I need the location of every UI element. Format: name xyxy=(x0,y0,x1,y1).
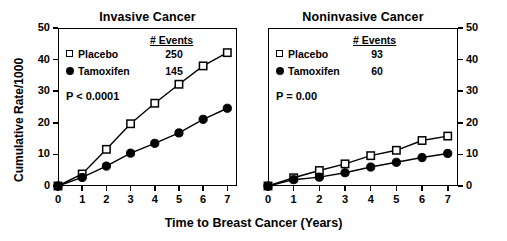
data-point xyxy=(392,158,400,166)
y-tick-label: 0 xyxy=(22,179,50,191)
x-tick-label: 1 xyxy=(284,193,304,205)
x-tick-mark xyxy=(344,186,346,191)
legend-label-tamoxifen: Tamoxifen xyxy=(288,65,340,77)
x-tick-label: 0 xyxy=(258,193,278,205)
y-tick-label: 0 xyxy=(466,179,494,191)
x-tick-mark xyxy=(293,186,295,191)
data-point xyxy=(367,163,375,171)
y-tick-label: 50 xyxy=(22,21,50,33)
data-point xyxy=(341,169,349,177)
x-tick-mark xyxy=(227,186,229,191)
y-tick-mark xyxy=(53,122,58,124)
x-tick-label: 0 xyxy=(48,193,68,205)
y-tick-mark xyxy=(458,27,463,29)
x-tick-mark xyxy=(421,186,423,191)
y-tick-mark xyxy=(458,122,463,124)
figure-root: Cumulative Rate/1000 Time to Breast Canc… xyxy=(0,0,507,241)
y-tick-label: 30 xyxy=(22,84,50,96)
y-tick-label: 20 xyxy=(466,116,494,128)
y-tick-mark xyxy=(458,90,463,92)
x-tick-mark xyxy=(178,186,180,191)
x-tick-label: 5 xyxy=(386,193,406,205)
data-point xyxy=(393,147,400,154)
data-point xyxy=(341,160,348,167)
filled-circle-icon xyxy=(276,67,284,75)
y-tick-label: 50 xyxy=(466,21,494,33)
x-tick-mark xyxy=(130,186,132,191)
x-tick-mark xyxy=(319,186,321,191)
x-tick-label: 2 xyxy=(96,193,116,205)
x-tick-mark xyxy=(447,186,449,191)
x-tick-mark xyxy=(370,186,372,191)
x-tick-label: 7 xyxy=(438,193,458,205)
x-tick-label: 5 xyxy=(169,193,189,205)
x-tick-label: 4 xyxy=(145,193,165,205)
x-tick-mark xyxy=(267,186,269,191)
x-tick-label: 7 xyxy=(217,193,237,205)
y-tick-mark xyxy=(53,154,58,156)
x-tick-mark xyxy=(202,186,204,191)
x-tick-mark xyxy=(81,186,83,191)
legend-label-placebo: Placebo xyxy=(288,48,328,60)
data-point xyxy=(290,176,298,184)
x-tick-label: 4 xyxy=(361,193,381,205)
x-tick-label: 1 xyxy=(72,193,92,205)
y-tick-mark xyxy=(53,59,58,61)
y-tick-label: 10 xyxy=(466,147,494,159)
data-point xyxy=(315,173,323,181)
data-point xyxy=(444,149,452,157)
data-point xyxy=(418,153,426,161)
x-tick-mark xyxy=(106,186,108,191)
x-tick-label: 6 xyxy=(193,193,213,205)
y-tick-label: 40 xyxy=(466,53,494,65)
x-tick-label: 2 xyxy=(309,193,329,205)
y-tick-mark xyxy=(53,90,58,92)
data-point xyxy=(367,152,374,159)
x-tick-label: 3 xyxy=(335,193,355,205)
y-tick-mark xyxy=(458,185,463,187)
x-tick-label: 3 xyxy=(121,193,141,205)
y-tick-label: 30 xyxy=(466,84,494,96)
x-tick-mark xyxy=(396,186,398,191)
x-tick-label: 6 xyxy=(412,193,432,205)
y-tick-label: 10 xyxy=(22,147,50,159)
data-point xyxy=(418,137,425,144)
events-header-noninvasive: # Events xyxy=(353,34,396,46)
y-tick-mark xyxy=(458,59,463,61)
y-tick-label: 40 xyxy=(22,53,50,65)
data-point xyxy=(444,132,451,139)
y-tick-mark xyxy=(458,154,463,156)
events-value-tamoxifen-noninvasive: 60 xyxy=(353,65,401,77)
open-square-icon xyxy=(276,50,283,57)
p-value-noninvasive: P = 0.00 xyxy=(276,90,317,102)
x-tick-mark xyxy=(154,186,156,191)
y-tick-label: 20 xyxy=(22,116,50,128)
events-value-placebo-noninvasive: 93 xyxy=(353,48,401,60)
y-tick-mark xyxy=(53,27,58,29)
x-tick-mark xyxy=(57,186,59,191)
